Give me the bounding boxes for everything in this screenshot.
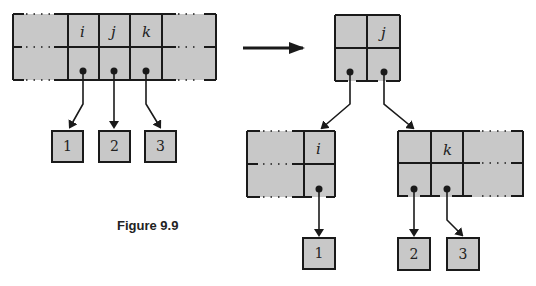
before-leaves: 1 2 3: [52, 131, 176, 162]
leaf-label: 1: [63, 138, 72, 154]
leaf-label: 1: [315, 245, 324, 261]
leaf-label: 3: [459, 246, 468, 262]
key-i: i: [316, 140, 321, 158]
right-child-node: k: [398, 131, 523, 197]
original-node: i j k: [13, 14, 216, 80]
leaf-label: 2: [410, 246, 419, 262]
b-tree-split-diagram: i j k 1 2 3 j: [0, 0, 536, 286]
leaf-label: 3: [156, 138, 165, 154]
key-k: k: [142, 23, 151, 41]
key-i: i: [80, 23, 85, 41]
leaf-label: 2: [110, 138, 119, 154]
left-child-node: i: [247, 131, 335, 197]
parent-node: j: [335, 15, 400, 81]
figure-caption: Figure 9.9: [117, 218, 178, 233]
key-k: k: [443, 141, 452, 159]
